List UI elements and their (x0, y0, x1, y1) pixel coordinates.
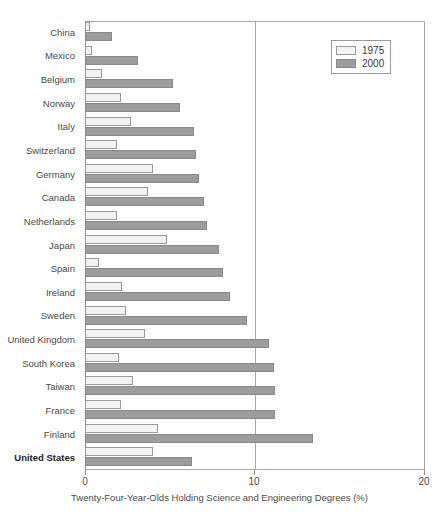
bar-1975 (85, 376, 133, 385)
bar-2000 (85, 127, 194, 136)
category-label: Japan (49, 240, 75, 251)
bar-group (85, 399, 425, 423)
category-axis-labels: ChinaMexicoBelgiumNorwayItalySwitzerland… (0, 21, 80, 470)
bar-1975 (85, 447, 153, 456)
category-label: Germany (36, 169, 75, 180)
bar-group (85, 116, 425, 140)
bar-group (85, 186, 425, 210)
bar-1975 (85, 117, 131, 126)
bar-2000 (85, 79, 173, 88)
category-label: Spain (51, 263, 75, 274)
bar-1975 (85, 140, 117, 149)
bar-2000 (85, 197, 204, 206)
category-label: Switzerland (26, 145, 75, 156)
dark-swatch-icon (336, 59, 356, 68)
bar-2000 (85, 56, 138, 65)
bar-group (85, 281, 425, 305)
x-tick-0 (85, 470, 86, 475)
bar-2000 (85, 221, 207, 230)
category-label: Norway (43, 98, 75, 109)
category-label: South Korea (22, 358, 75, 369)
bar-1975 (85, 306, 126, 315)
category-label: United States (14, 452, 75, 463)
x-axis-title: Twenty-Four-Year-Olds Holding Science an… (0, 492, 439, 503)
bar-1975 (85, 22, 90, 31)
legend: 1975 2000 (331, 40, 391, 74)
bar-group (85, 375, 425, 399)
bars-container (85, 21, 425, 470)
bar-2000 (85, 268, 223, 277)
bar-1975 (85, 353, 119, 362)
science-engineering-degrees-bar-chart: ChinaMexicoBelgiumNorwayItalySwitzerland… (0, 0, 439, 518)
category-label: France (45, 405, 75, 416)
bar-1975 (85, 164, 153, 173)
bar-2000 (85, 32, 112, 41)
legend-label-1975: 1975 (362, 45, 384, 56)
bar-group (85, 234, 425, 258)
bar-group (85, 305, 425, 329)
x-tick-label-0: 0 (82, 476, 88, 487)
bar-1975 (85, 187, 148, 196)
legend-item-2000: 2000 (336, 57, 384, 70)
bar-2000 (85, 292, 230, 301)
category-label: United Kingdom (7, 334, 75, 345)
bar-group (85, 139, 425, 163)
x-tick-label-20: 20 (418, 476, 429, 487)
category-label: Taiwan (45, 381, 75, 392)
category-label: Ireland (46, 287, 75, 298)
category-label: Italy (58, 121, 75, 132)
bar-2000 (85, 363, 274, 372)
bar-1975 (85, 93, 121, 102)
bar-2000 (85, 386, 275, 395)
bar-1975 (85, 282, 122, 291)
bar-2000 (85, 457, 192, 466)
category-label: Mexico (45, 50, 75, 61)
bar-2000 (85, 103, 180, 112)
bar-group (85, 423, 425, 447)
bar-2000 (85, 410, 275, 419)
bar-1975 (85, 329, 145, 338)
category-label: Canada (42, 192, 75, 203)
bar-1975 (85, 211, 117, 220)
bar-1975 (85, 258, 99, 267)
bar-group (85, 328, 425, 352)
light-swatch-icon (336, 46, 356, 55)
bar-group (85, 92, 425, 116)
category-label: Belgium (41, 74, 75, 85)
bar-2000 (85, 245, 219, 254)
x-tick-label-10: 10 (248, 476, 259, 487)
category-label: Finland (44, 429, 75, 440)
bar-group (85, 163, 425, 187)
bar-1975 (85, 46, 92, 55)
bar-group (85, 446, 425, 470)
bar-2000 (85, 150, 196, 159)
category-label: Netherlands (24, 216, 75, 227)
bar-1975 (85, 235, 167, 244)
bar-2000 (85, 174, 199, 183)
bar-1975 (85, 424, 158, 433)
bar-1975 (85, 69, 102, 78)
bar-2000 (85, 434, 313, 443)
bar-group (85, 352, 425, 376)
legend-item-1975: 1975 (336, 44, 384, 57)
bar-1975 (85, 400, 121, 409)
bar-2000 (85, 316, 247, 325)
bar-group (85, 257, 425, 281)
x-tick-20 (424, 470, 425, 475)
legend-label-2000: 2000 (362, 58, 384, 69)
category-label: Sweden (41, 310, 75, 321)
bar-2000 (85, 339, 269, 348)
bar-group (85, 210, 425, 234)
x-tick-10 (254, 470, 255, 475)
category-label: China (50, 27, 75, 38)
